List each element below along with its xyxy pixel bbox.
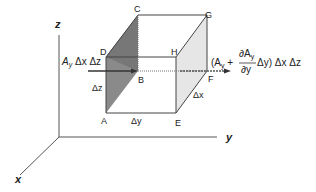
vertex-G: G [205, 10, 212, 20]
svg-text:Δy) Δx Δz: Δy) Δx Δz [257, 57, 301, 68]
z-axis-label: z [54, 18, 61, 30]
x-axis-label: x [14, 173, 22, 185]
vertex-H: H [171, 47, 178, 57]
control-volume-diagram: z y x C G D H B F A E Δz Δy Δx Ay Δx Δz [0, 0, 316, 192]
dz-label: Δz [92, 83, 103, 93]
vertex-E: E [175, 118, 181, 128]
dx-label: Δx [193, 90, 204, 100]
vertex-C: C [134, 4, 141, 14]
svg-text:∂Ay: ∂Ay [239, 48, 255, 61]
dy-label: Δy [131, 116, 142, 126]
vertex-B: B [138, 75, 144, 85]
vertex-A: A [101, 116, 107, 126]
svg-text:(Ay +: (Ay + [211, 57, 233, 70]
svg-text:∂y: ∂y [241, 64, 251, 75]
vertex-F: F [208, 74, 214, 84]
x-axis [20, 137, 59, 175]
y-axis-label: y [225, 131, 233, 143]
inflow-label: Ay Δx Δz [61, 56, 101, 69]
